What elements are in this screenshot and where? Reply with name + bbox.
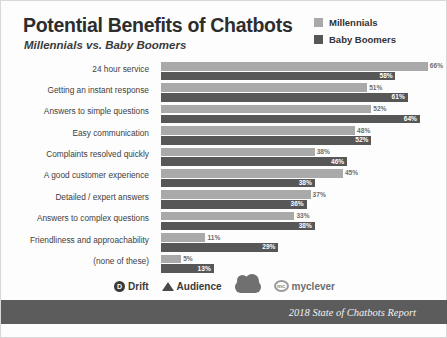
bar-baby-boomers (161, 136, 371, 145)
bar-wrapper: 13% (161, 264, 444, 273)
audience-logo-label: Audience (177, 281, 222, 292)
category-label: (none of these) (1, 256, 156, 266)
bar-value-label: 52% (373, 105, 386, 113)
report-attribution: 2018 State of Chatbots Report (289, 307, 447, 318)
bar-value-label: 29% (262, 243, 275, 251)
category-label: Answers to complex questions (1, 213, 156, 223)
chart-row: Answers to simple questions52%64% (1, 104, 447, 125)
bar-chart-plot: 24 hour service66%58%Getting an instant … (1, 61, 447, 269)
bar-value-label: 61% (392, 93, 405, 101)
category-label: A good customer experience (1, 170, 156, 180)
bar-wrapper: 37% (161, 190, 444, 199)
bar-value-label: 38% (317, 148, 330, 156)
bar-millennials (161, 190, 311, 199)
bar-wrapper: 46% (161, 157, 444, 166)
chart-row: Getting an instant response51%61% (1, 82, 447, 103)
bar-value-label: 5% (183, 255, 193, 263)
bar-wrapper: 51% (161, 83, 444, 92)
bar-value-label: 11% (207, 234, 220, 242)
bar-wrapper: 52% (161, 136, 444, 145)
chart-header: Potential Benefits of Chatbots Millennia… (1, 1, 447, 59)
bar-value-label: 45% (345, 169, 358, 177)
bar-wrapper: 52% (161, 105, 444, 114)
chart-legend: Millennials Baby Boomers (314, 15, 426, 49)
bar-wrapper: 64% (161, 115, 444, 124)
bar-baby-boomers (161, 179, 315, 188)
bar-millennials (161, 148, 315, 157)
chart-row: Answers to complex questions33%38% (1, 211, 447, 232)
legend-swatch-icon (314, 18, 323, 27)
bar-wrapper: 48% (161, 126, 444, 135)
bar-millennials (161, 83, 367, 92)
bar-value-label: 64% (404, 115, 417, 123)
bar-value-label: 48% (357, 127, 370, 135)
chart-row: Complaints resolved quickly38%46% (1, 147, 447, 168)
salesforce-logo (235, 280, 261, 293)
bar-wrapper: 45% (161, 169, 444, 178)
bar-wrapper: 58% (161, 72, 444, 81)
bar-value-label: 38% (299, 179, 312, 187)
bar-value-label: 46% (331, 158, 344, 166)
bar-value-label: 58% (379, 72, 392, 80)
sponsor-logos: D Drift Audience mc myclever (1, 273, 447, 299)
bar-wrapper: 11% (161, 233, 444, 242)
bar-millennials (161, 169, 343, 178)
bar-value-label: 66% (430, 62, 443, 70)
bar-baby-boomers (161, 115, 420, 124)
bar-group: 38%46% (161, 147, 444, 168)
bar-millennials (161, 126, 355, 135)
bar-wrapper: 61% (161, 93, 444, 102)
bar-baby-boomers (161, 200, 307, 209)
bar-group: 48%52% (161, 125, 444, 146)
bar-value-label: 38% (299, 222, 312, 230)
bar-value-label: 36% (291, 200, 304, 208)
bar-millennials (161, 255, 181, 264)
bar-baby-boomers (161, 243, 278, 252)
bar-wrapper: 29% (161, 243, 444, 252)
drift-logo: D Drift (114, 281, 149, 292)
myclever-logo-label: myclever (292, 281, 335, 292)
legend-item-millennials: Millennials (314, 15, 426, 29)
category-label: Detailed / expert answers (1, 192, 156, 202)
page-title: Potential Benefits of Chatbots (23, 14, 292, 37)
bar-wrapper: 38% (161, 179, 444, 188)
chart-row: A good customer experience45%38% (1, 168, 447, 189)
category-label: Friendliness and approachability (1, 235, 156, 245)
category-label: Complaints resolved quickly (1, 149, 156, 159)
chart-row: 24 hour service66%58% (1, 61, 447, 82)
bar-value-label: 13% (198, 265, 211, 273)
bar-group: 37%36% (161, 189, 444, 210)
bar-wrapper: 38% (161, 148, 444, 157)
bar-millennials (161, 233, 205, 242)
drift-mark-icon: D (114, 281, 125, 292)
legend-label: Baby Boomers (329, 34, 396, 45)
bar-value-label: 37% (313, 191, 326, 199)
bar-group: 45%38% (161, 168, 444, 189)
chart-row: Friendliness and approachability11%29% (1, 232, 447, 253)
bar-group: 52%64% (161, 104, 444, 125)
category-label: Answers to simple questions (1, 106, 156, 116)
bar-group: 11%29% (161, 232, 444, 253)
category-label: Easy communication (1, 128, 156, 138)
bar-wrapper: 36% (161, 200, 444, 209)
bar-wrapper: 33% (161, 212, 444, 221)
bar-wrapper: 38% (161, 222, 444, 231)
chart-subtitle: Millennials vs. Baby Boomers (24, 39, 186, 51)
category-label: 24 hour service (1, 64, 156, 74)
bar-baby-boomers (161, 222, 315, 231)
bar-baby-boomers (161, 157, 347, 166)
bar-millennials (161, 62, 428, 71)
bar-value-label: 33% (296, 212, 309, 220)
bar-value-label: 52% (355, 136, 368, 144)
legend-item-baby-boomers: Baby Boomers (314, 32, 426, 46)
chart-row: Easy communication48%52% (1, 125, 447, 146)
bar-group: 51%61% (161, 82, 444, 103)
footer-bar: 2018 State of Chatbots Report (1, 300, 447, 324)
bar-wrapper: 66% (161, 62, 444, 71)
category-label: Getting an instant response (1, 85, 156, 95)
bar-group: 66%58% (161, 61, 444, 82)
bar-group: 33%38% (161, 211, 444, 232)
myclever-mark-icon: mc (274, 280, 289, 292)
legend-swatch-icon (314, 35, 323, 44)
bar-millennials (161, 105, 371, 114)
